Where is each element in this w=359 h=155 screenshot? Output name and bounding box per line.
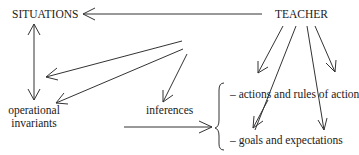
arrow-teacher-to-situations [83,8,262,20]
node-situations: SITUATIONS [12,8,78,20]
node-operational-invariants-line2: invariants [8,117,60,129]
node-actions-and-rules: – actions and rules of action [230,88,359,100]
arrow-teacher-to-actions-right [315,26,336,72]
arrow-situations-operational-invariants [28,24,40,100]
arrow-actions-to-goals-left [253,100,268,128]
node-operational-invariants-line1: operational [8,104,60,116]
arrow-teacher-to-actions-left [258,26,283,73]
arrow-teacher-to-left-upper [46,41,182,80]
node-goals-and-expectations: – goals and expectations [230,134,343,146]
arrow-teacher-to-goals-left [255,26,296,130]
arrow-teacher-to-goals-right [307,26,327,130]
arrow-teacher-to-inferences [163,54,187,102]
node-teacher: TEACHER [275,8,328,20]
arrow-invariants-to-group [124,121,212,133]
diagram-arrows [0,0,359,155]
node-inferences: inferences [146,104,193,116]
diagram-canvas: SITUATIONS TEACHER operational invariant… [0,0,359,155]
curly-brace [215,83,224,150]
